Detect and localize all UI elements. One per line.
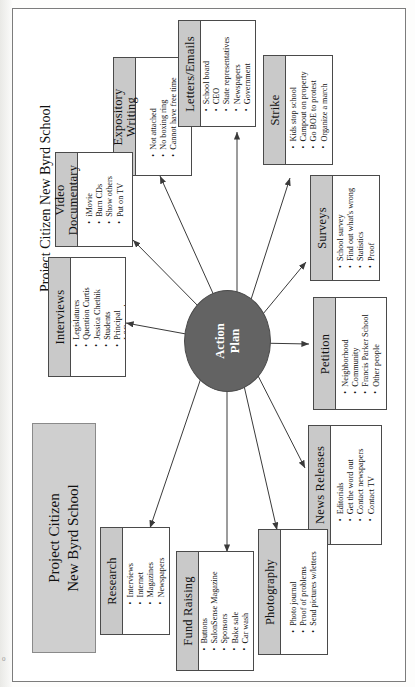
list-item: CEO (213, 36, 223, 111)
node-header-letters-emails: Letters/Emails (179, 21, 201, 126)
list-item: Principal (113, 287, 123, 347)
node-title-letters-emails: Letters/Emails (182, 36, 197, 112)
action-plan-label: Action Plan (213, 323, 243, 358)
list-item: Burn CDs (95, 176, 105, 224)
node-header-fund-raising: Fund Raising (177, 552, 199, 670)
node-title-strike: Strike (267, 94, 282, 125)
list-item: Internet (136, 557, 146, 604)
node-interviews[interactable]: Interviews LSC president Legislatures Qu… (48, 257, 126, 377)
list-item: LSC members (124, 287, 125, 347)
node-list-photography: Photo journal Proof of problems Send pic… (289, 551, 320, 633)
list-item: Government (243, 36, 253, 111)
list-item: Magazines (146, 557, 156, 604)
node-petition[interactable]: Petition Neighborhood Community Francis … (313, 297, 387, 410)
list-item: Contact TV (366, 449, 376, 522)
node-title-news-releases: News Releases (312, 446, 327, 524)
node-strike[interactable]: Strike Kids stop school Campout on prope… (263, 55, 333, 165)
node-list-letters-emails: School board CEO State representatives N… (202, 36, 253, 111)
node-body-interviews: LSC president Legislatures Quention Curt… (71, 258, 125, 376)
list-item: Show others (105, 176, 115, 224)
node-body-photography: Photo journal Proof of problems Send pic… (281, 530, 327, 654)
list-item: SalonSense Magazine (211, 571, 221, 650)
node-body-research: Interviews Internet Magazines Newspapers (123, 528, 169, 634)
list-item: Car wash (241, 571, 251, 650)
node-title-surveys: Surveys (314, 207, 329, 249)
list-item: Photo journal (289, 551, 299, 633)
node-header-video-documentary: VideoDocumentary (56, 153, 78, 246)
node-list-news-releases: Editorials Get the word out Contact news… (336, 449, 377, 522)
list-item: Contact newspapers (356, 449, 366, 522)
node-title-fund-raising: Fund Raising (180, 576, 195, 645)
hub-line-2: Plan (228, 329, 242, 353)
list-item: Quention Curtis (83, 287, 93, 347)
list-item: Proof (366, 188, 376, 268)
node-title-research: Research (104, 557, 119, 604)
list-item: Campout on property (299, 71, 309, 148)
list-item: Not attached (148, 77, 158, 157)
list-item: Sponsors (221, 571, 231, 650)
node-body-video-documentary: iMovie Burn CDs Show others Put on TV (78, 153, 132, 246)
node-body-fund-raising: Buttons SalonSense Magazine Sponsors Bak… (199, 552, 253, 670)
node-photography[interactable]: Photography Photo journal Proof of probl… (258, 529, 328, 655)
stamp-line-2: New Byrd School (65, 484, 81, 592)
list-item: Other people (371, 314, 381, 393)
list-item: Students (103, 287, 113, 347)
node-list-strike: Kids stop school Campout on property Go … (289, 71, 330, 148)
node-list-surveys: School survey Find out what's wrong Stat… (336, 188, 377, 268)
node-header-research: Research (101, 528, 123, 634)
action-plan-hub[interactable]: Action Plan (184, 290, 271, 392)
list-item: State representatives (223, 36, 233, 111)
node-letters-emails[interactable]: Letters/Emails School board CEO State re… (178, 20, 256, 127)
node-title-petition: Petition (317, 333, 332, 374)
node-body-surveys: School survey Find out what's wrong Stat… (333, 176, 379, 280)
list-item: Go BOE to protest (309, 71, 319, 148)
node-list-research: Interviews Internet Magazines Newspapers (126, 557, 167, 604)
list-item: Get the word out (346, 449, 356, 522)
node-news-releases[interactable]: News Releases Editorials Get the word ou… (308, 425, 382, 545)
node-list-fund-raising: Buttons SalonSense Magazine Sponsors Bak… (200, 571, 251, 650)
stamp-line-1: Project Citizen (46, 493, 62, 583)
node-header-photography: Photography (259, 530, 281, 654)
node-header-surveys: Surveys (311, 176, 333, 280)
list-item: Francis Parker School (361, 314, 371, 393)
list-item: Interviews (126, 557, 136, 604)
node-title-video-documentary-l1: Video (53, 184, 67, 215)
list-item: Legislatures (72, 287, 82, 347)
node-list-petition: Neighborhood Community Francis Parker Sc… (341, 314, 382, 393)
node-list-expository-writing: Not attached No boxing ring Cannot have … (148, 77, 179, 157)
node-surveys[interactable]: Surveys School survey Find out what's wr… (310, 175, 380, 281)
project-stamp-text: Project Citizen New Byrd School (45, 484, 83, 592)
node-header-interviews: Interviews (49, 258, 71, 376)
node-fund-raising[interactable]: Fund Raising Buttons SalonSense Magazine… (176, 551, 254, 671)
list-item: Community (351, 314, 361, 393)
list-item: iMovie (85, 176, 95, 224)
node-title-interviews: Interviews (52, 290, 67, 345)
hub-line-1: Action (213, 323, 227, 358)
list-item: No boxing ring (158, 77, 168, 157)
node-header-news-releases: News Releases (309, 426, 331, 544)
node-header-strike: Strike (264, 56, 286, 164)
node-header-petition: Petition (314, 298, 336, 409)
list-item: School survey (336, 188, 346, 268)
list-item: Statistics (356, 188, 366, 268)
list-item: Newspapers (156, 557, 166, 604)
node-title-photography: Photography (262, 559, 277, 625)
node-list-interviews: LSC president Legislatures Quention Curt… (71, 287, 125, 347)
node-video-documentary[interactable]: VideoDocumentary iMovie Burn CDs Show ot… (55, 152, 133, 247)
list-item: Newspapers (233, 36, 243, 111)
project-stamp: Project Citizen New Byrd School (32, 423, 96, 653)
list-item: Bake sale (231, 571, 241, 650)
list-item: Send pictures w/letters (309, 551, 319, 633)
node-research[interactable]: Research Interviews Internet Magazines N… (100, 527, 170, 635)
list-item: Organize a march (319, 71, 329, 148)
list-item: Buttons (200, 571, 210, 650)
list-item: School board (202, 36, 212, 111)
list-item: Kids stop school (289, 71, 299, 148)
list-item: Put on TV (115, 176, 125, 224)
node-body-news-releases: Editorials Get the word out Contact news… (331, 426, 381, 544)
node-body-letters-emails: School board CEO State representatives N… (201, 21, 255, 126)
node-body-petition: Neighborhood Community Francis Parker Sc… (336, 298, 386, 409)
node-body-strike: Kids stop school Campout on property Go … (286, 56, 332, 164)
list-item: Proof of problems (299, 551, 309, 633)
list-item: Find out what's wrong (346, 188, 356, 268)
